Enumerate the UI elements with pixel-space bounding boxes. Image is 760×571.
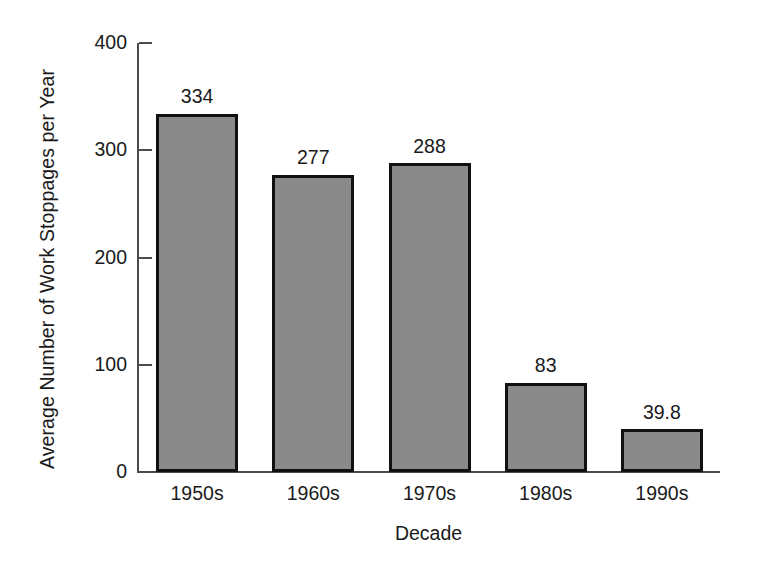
bar — [621, 429, 703, 472]
bar-value-label: 277 — [297, 148, 330, 168]
x-axis-tick-label: 1960s — [255, 484, 371, 504]
bar-value-label: 334 — [181, 87, 214, 107]
bar — [272, 175, 354, 472]
x-axis-tick-label: 1950s — [139, 484, 255, 504]
bar-value-label: 288 — [413, 137, 446, 157]
y-axis-tick-label: 100 — [55, 355, 127, 375]
y-axis-tick-label: 200 — [55, 248, 127, 268]
y-axis-tick-label: 400 — [55, 33, 127, 53]
bar-value-label: 39.8 — [643, 403, 681, 423]
y-axis-title: Average Number of Work Stoppages per Yea… — [29, 39, 65, 499]
x-axis-title: Decade — [137, 522, 720, 545]
x-axis-tick-label: 1990s — [604, 484, 720, 504]
bar-chart: Average Number of Work Stoppages per Yea… — [0, 0, 760, 571]
y-axis-tick-label: 0 — [55, 462, 127, 482]
bar-group: 334 — [156, 43, 238, 472]
bar — [505, 383, 587, 472]
bar-group: 288 — [389, 43, 471, 472]
bar-group: 83 — [505, 43, 587, 472]
bar — [389, 163, 471, 472]
bar-group: 39.8 — [621, 43, 703, 472]
bar-value-label: 83 — [535, 356, 557, 376]
plot-area: 3342772888339.8 — [139, 43, 720, 472]
bar-group: 277 — [272, 43, 354, 472]
x-axis-tick-label: 1980s — [488, 484, 604, 504]
y-axis-tick-label: 300 — [55, 140, 127, 160]
bar — [156, 114, 238, 472]
x-axis-tick-label: 1970s — [371, 484, 487, 504]
